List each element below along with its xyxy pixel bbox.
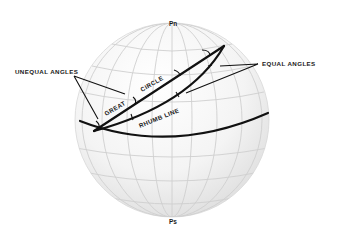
unequal-angles-label: UNEQUAL ANGLES: [15, 68, 78, 75]
north-pole-label: Pn: [169, 20, 177, 27]
sphere-diagram: Pn Ps UNEQUAL ANGLES EQUAL ANGLES GREAT …: [0, 0, 338, 236]
equal-angles-label: EQUAL ANGLES: [262, 60, 316, 67]
south-pole-label: Ps: [169, 218, 177, 225]
